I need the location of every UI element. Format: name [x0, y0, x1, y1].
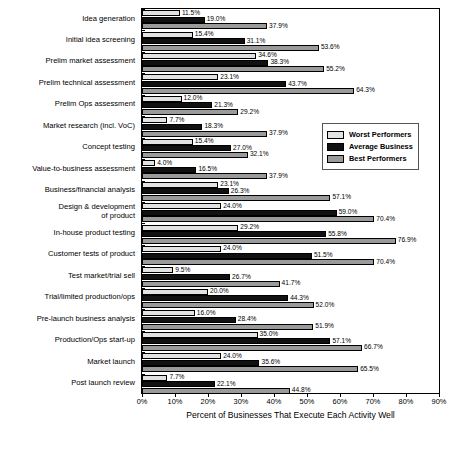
bar-avg	[142, 145, 231, 151]
bar-value-label: 57.1%	[332, 194, 351, 201]
x-axis-tick-label: 60%	[333, 398, 348, 406]
bar-value-label: 26.7%	[232, 273, 251, 280]
bar-value-label: 31.1%	[247, 37, 266, 44]
bar-group: 16.0%28.4%51.9%	[142, 309, 439, 330]
bar-value-label: 26.3%	[231, 187, 250, 194]
legend-swatch-best	[327, 155, 344, 163]
category-label: Market launch	[0, 358, 135, 366]
bar-value-label: 32.1%	[250, 151, 269, 158]
bar-group: 9.5%26.7%41.7%	[142, 266, 439, 287]
bar-group: 15.4%31.1%53.6%	[142, 30, 439, 51]
category-label: Prelim Ops assessment	[0, 100, 135, 108]
bar-best	[142, 388, 290, 394]
bar-value-label: 55.2%	[326, 65, 345, 72]
bar-value-label: 16.0%	[197, 309, 216, 316]
bar-best	[142, 45, 319, 51]
bar-best	[142, 131, 267, 137]
bar-group: 23.1%43.7%64.3%	[142, 73, 439, 94]
bar-value-label: 24.0%	[223, 352, 242, 359]
x-axis-tick-label: 70%	[366, 398, 381, 406]
category-label: Trial/limited production/ops	[0, 293, 135, 301]
bar-best	[142, 324, 313, 330]
x-axis-title: Percent of Businesses That Execute Each …	[141, 410, 440, 421]
bar-value-label: 24.0%	[223, 202, 242, 209]
bar-avg	[142, 124, 202, 130]
category-label: Prelim technical assessment	[0, 79, 135, 87]
bar-worst	[142, 182, 218, 188]
bar-group: 29.2%55.8%76.9%	[142, 223, 439, 244]
bar-value-label: 21.3%	[214, 101, 233, 108]
category-label: Business/financial analysis	[0, 186, 135, 194]
bar-value-label: 28.4%	[238, 316, 257, 323]
bar-group: 11.5%19.0%37.9%	[142, 9, 439, 30]
category-label: In-house product testing	[0, 229, 135, 237]
bar-worst	[142, 353, 221, 359]
bar-best	[142, 259, 374, 265]
bar-worst	[142, 310, 195, 316]
bar-group: 20.0%44.3%52.0%	[142, 288, 439, 309]
bar-worst	[142, 160, 155, 166]
bar-best	[142, 173, 267, 179]
chart-legend: Worst PerformersAverage BusinessBest Per…	[322, 123, 419, 170]
category-label: Test market/trial sell	[0, 272, 135, 280]
bar-value-label: 4.0%	[157, 159, 172, 166]
bar-value-label: 70.4%	[376, 215, 395, 222]
bar-value-label: 55.8%	[328, 230, 347, 237]
bar-best	[142, 195, 330, 201]
bar-value-label: 44.8%	[292, 387, 311, 394]
legend-item: Average Business	[327, 141, 413, 152]
bar-worst	[142, 289, 208, 295]
category-axis: Idea generationInitial idea screeningPre…	[0, 8, 139, 394]
bar-value-label: 70.4%	[376, 258, 395, 265]
bar-worst	[142, 332, 258, 338]
bar-group: 35.0%57.1%66.7%	[142, 331, 439, 352]
bar-group: 12.0%21.3%29.2%	[142, 95, 439, 116]
x-axis-tick-label: 30%	[234, 398, 249, 406]
category-label: Design & development of product	[0, 203, 135, 220]
bar-best	[142, 238, 396, 244]
bar-worst	[142, 74, 218, 80]
bar-best	[142, 216, 374, 222]
bar-value-label: 38.3%	[270, 59, 289, 66]
bar-value-label: 43.7%	[288, 80, 307, 87]
bar-avg	[142, 38, 245, 44]
category-label: Value-to-business assessment	[0, 165, 135, 173]
legend-item: Worst Performers	[327, 129, 413, 140]
category-label: Post launch review	[0, 379, 135, 387]
bar-group: 24.0%35.6%65.5%	[142, 352, 439, 373]
bar-avg	[142, 274, 230, 280]
category-label: Idea generation	[0, 15, 135, 23]
bar-avg	[142, 210, 337, 216]
bar-value-label: 44.3%	[290, 294, 309, 301]
bar-value-label: 7.7%	[169, 116, 184, 123]
bar-best	[142, 281, 280, 287]
x-axis-tick-label: 90%	[432, 398, 447, 406]
category-label: Pre-launch business analysis	[0, 315, 135, 323]
bar-value-label: 23.1%	[220, 73, 239, 80]
bar-value-label: 9.5%	[175, 266, 190, 273]
bar-value-label: 20.0%	[210, 288, 229, 295]
x-axis-tick-label: 50%	[300, 398, 315, 406]
bar-group: 7.7%22.1%44.8%	[142, 374, 439, 394]
bar-best	[142, 23, 267, 29]
bar-group: 24.0%59.0%70.4%	[142, 202, 439, 223]
bar-value-label: 22.1%	[217, 380, 236, 387]
bar-worst	[142, 267, 173, 273]
bar-worst	[142, 96, 182, 102]
bar-avg	[142, 60, 268, 66]
bar-best	[142, 109, 238, 115]
category-label: Initial idea screening	[0, 36, 135, 44]
bar-value-label: 37.9%	[269, 22, 288, 29]
bar-worst	[142, 375, 167, 381]
bar-group: 23.1%26.3%57.1%	[142, 181, 439, 202]
bar-value-label: 57.1%	[332, 337, 351, 344]
legend-swatch-avg	[327, 143, 344, 151]
x-axis-tick-label: 0%	[137, 398, 148, 406]
plot-area: 11.5%19.0%37.9%15.4%31.1%53.6%34.6%38.3%…	[141, 8, 440, 394]
bar-avg	[142, 338, 330, 344]
bar-worst	[142, 32, 193, 38]
bar-best	[142, 345, 362, 351]
bar-avg	[142, 17, 205, 23]
category-label: Production/Ops start-up	[0, 336, 135, 344]
bar-value-label: 66.7%	[364, 344, 383, 351]
